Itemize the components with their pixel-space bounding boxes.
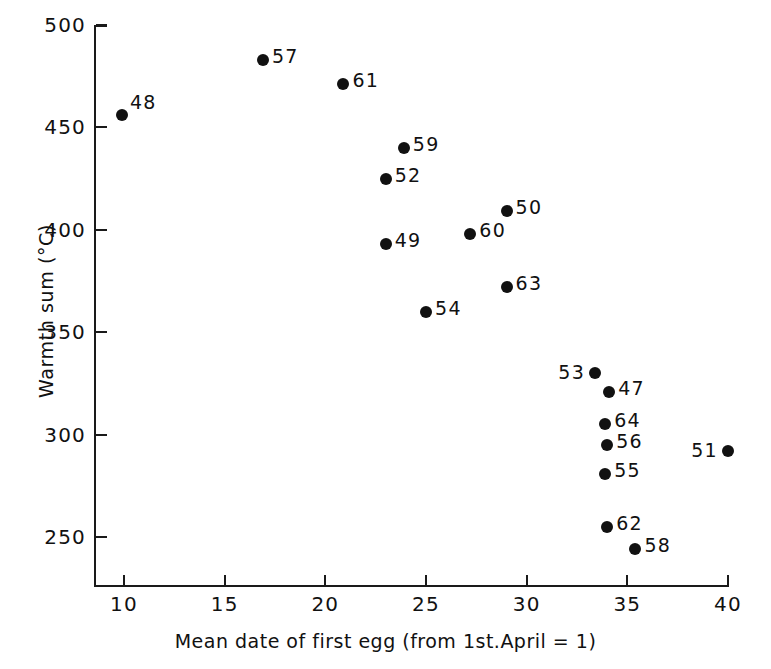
- data-marker-dot: [599, 418, 611, 430]
- data-marker-dot: [501, 281, 513, 293]
- x-tick-25: [425, 575, 427, 586]
- data-marker-dot: [599, 468, 611, 480]
- data-marker-dot: [601, 521, 613, 533]
- y-tick-label-500: 500: [28, 13, 86, 37]
- data-marker-dot: [257, 54, 269, 66]
- data-marker-dot: [464, 228, 476, 240]
- data-point-label-55: 55: [614, 459, 641, 481]
- y-axis-title: Warmth sum (°C): [35, 161, 57, 461]
- data-point-label-50: 50: [516, 196, 543, 218]
- data-marker-dot: [380, 238, 392, 250]
- x-tick-35: [626, 575, 628, 586]
- data-point-label-56: 56: [616, 430, 643, 452]
- y-tick-400: [96, 229, 107, 231]
- x-tick-label-30: 30: [497, 592, 557, 616]
- data-marker-dot: [337, 78, 349, 90]
- data-marker-dot: [603, 386, 615, 398]
- x-axis-line: [94, 585, 729, 587]
- y-tick-350: [96, 331, 107, 333]
- data-point-label-48: 48: [130, 91, 157, 113]
- data-point-label-63: 63: [516, 272, 543, 294]
- data-point-label-49: 49: [395, 229, 422, 251]
- data-marker-dot: [116, 109, 128, 121]
- data-marker-dot: [629, 543, 641, 555]
- x-tick-label-35: 35: [597, 592, 657, 616]
- data-point-label-54: 54: [435, 297, 462, 319]
- data-point-label-58: 58: [644, 534, 671, 556]
- x-tick-label-40: 40: [698, 592, 758, 616]
- data-point-label-47: 47: [618, 377, 645, 399]
- data-point-label-60: 60: [479, 219, 506, 241]
- data-point-label-57: 57: [272, 45, 299, 67]
- y-tick-250: [96, 536, 107, 538]
- data-marker-dot: [601, 439, 613, 451]
- data-marker-dot: [420, 306, 432, 318]
- data-marker-dot: [501, 205, 513, 217]
- data-point-label-53: 53: [558, 361, 585, 383]
- data-point-label-62: 62: [616, 512, 643, 534]
- x-tick-20: [324, 575, 326, 586]
- x-axis-title: Mean date of first egg (from 1st.April =…: [0, 630, 771, 652]
- data-point-label-51: 51: [691, 439, 718, 461]
- x-tick-30: [526, 575, 528, 586]
- data-point-label-61: 61: [352, 69, 379, 91]
- x-tick-15: [224, 575, 226, 586]
- y-tick-300: [96, 434, 107, 436]
- scatter-plot-figure: 250300350400450500 10152025303540 Warmth…: [0, 0, 771, 669]
- y-tick-label-250: 250: [28, 525, 86, 549]
- x-tick-label-10: 10: [94, 592, 154, 616]
- x-tick-label-25: 25: [396, 592, 456, 616]
- x-tick-label-15: 15: [195, 592, 255, 616]
- data-marker-dot: [589, 367, 601, 379]
- y-tick-label-450: 450: [28, 115, 86, 139]
- y-tick-450: [96, 126, 107, 128]
- x-axis-right-cap: [727, 575, 729, 587]
- data-marker-dot: [722, 445, 734, 457]
- data-marker-dot: [380, 173, 392, 185]
- data-point-label-52: 52: [395, 164, 422, 186]
- x-tick-10: [123, 575, 125, 586]
- data-point-label-59: 59: [413, 133, 440, 155]
- y-tick-500: [96, 24, 107, 26]
- x-tick-label-20: 20: [295, 592, 355, 616]
- data-point-label-64: 64: [614, 409, 641, 431]
- data-marker-dot: [398, 142, 410, 154]
- y-axis-line: [94, 25, 96, 587]
